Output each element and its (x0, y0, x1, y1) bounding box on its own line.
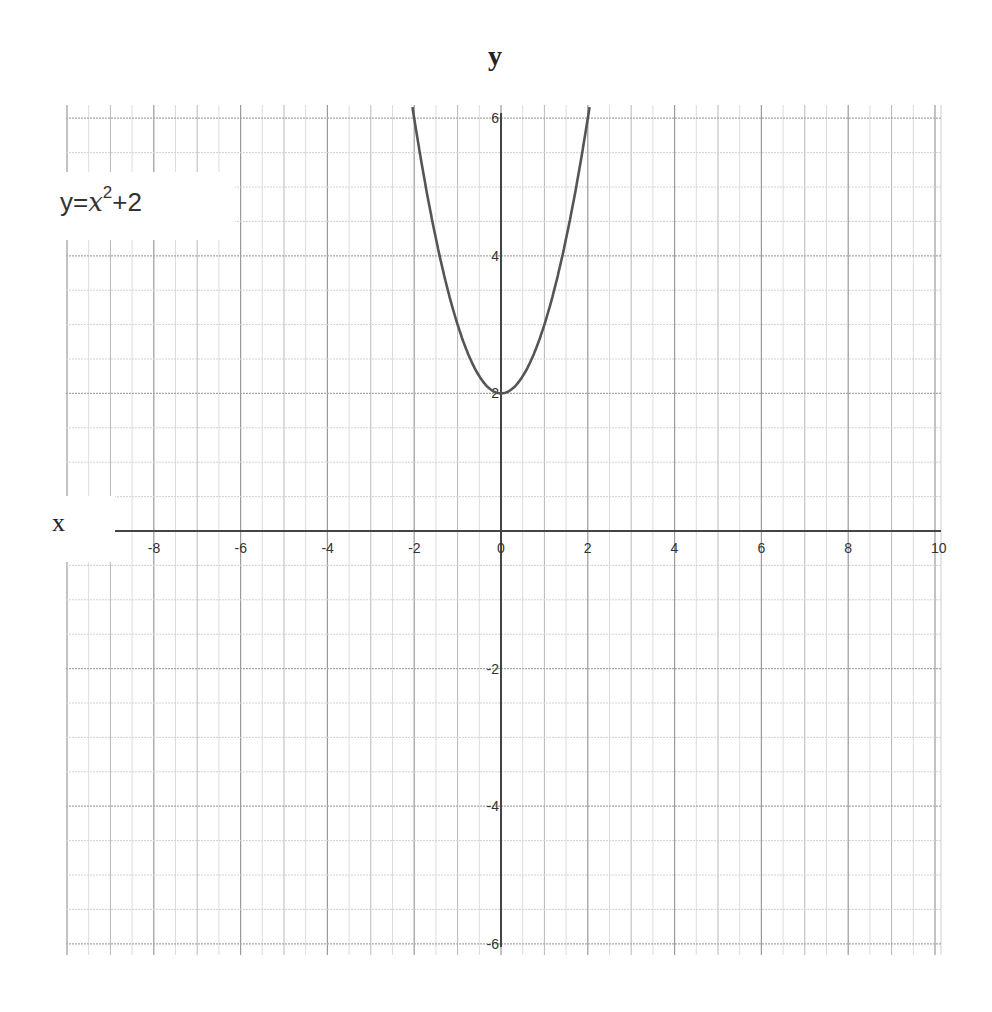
y-tick-label: 6 (491, 110, 499, 126)
equation-prefix: y= (60, 187, 88, 217)
axes (115, 113, 941, 947)
y-axis-title: y (488, 40, 502, 72)
x-tick-label: 0 (497, 540, 505, 556)
x-tick-label: 6 (757, 540, 765, 556)
x-tick-label: 10 (931, 540, 947, 556)
x-tick-label: -6 (235, 540, 248, 556)
equation-variable: x (88, 187, 103, 217)
equation-label: y=x2+2 (60, 186, 142, 218)
x-tick-label: 2 (584, 540, 592, 556)
equation-exponent: 2 (103, 183, 112, 202)
y-tick-label: 4 (491, 248, 499, 264)
x-tick-label: -2 (408, 540, 421, 556)
x-tick-label: 8 (844, 540, 852, 556)
x-axis-title: x (52, 508, 65, 538)
y-tick-label: -6 (487, 936, 500, 952)
x-tick-label: -4 (321, 540, 334, 556)
graph-canvas: -8-6-4-20246810-6-4-2246 (0, 0, 992, 1012)
equation-suffix: +2 (112, 187, 142, 217)
x-tick-label: -8 (148, 540, 161, 556)
y-tick-label: -4 (487, 798, 500, 814)
y-tick-label: -2 (487, 661, 500, 677)
x-tick-label: 4 (671, 540, 679, 556)
